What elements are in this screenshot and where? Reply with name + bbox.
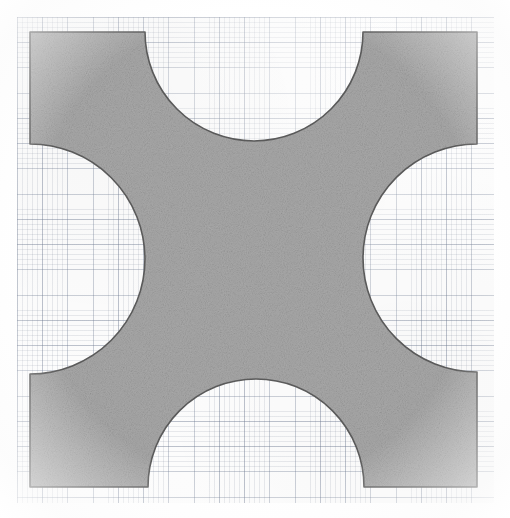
drawing-canvas: Shaded square region with four concave s… [0, 0, 510, 518]
notched-square-figure [0, 0, 510, 518]
figure-layer [0, 0, 510, 518]
notched-square-texture [30, 32, 477, 487]
